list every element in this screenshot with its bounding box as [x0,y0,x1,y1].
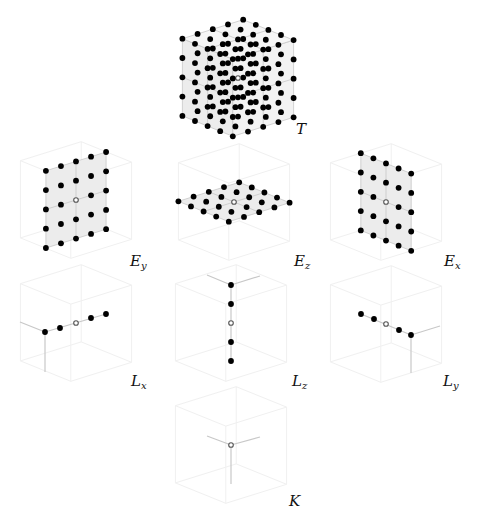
lattice-point [238,104,244,110]
lattice-point [371,316,377,322]
label-T: T [296,122,306,139]
lattice-point [73,178,79,184]
lattice-point [223,51,229,57]
lattice-point [201,209,207,215]
lattice-point [291,95,297,101]
lattice-point [210,104,216,110]
panel-Lz [175,265,286,382]
lattice-point [276,61,282,67]
lattice-point [383,238,389,244]
lattice-point [220,61,226,67]
lattice-point [195,31,201,37]
lattice-point [43,168,49,174]
lattice-point [408,332,414,338]
lattice-point [73,159,79,165]
hollow-center-point [229,321,234,326]
lattice-point [226,219,232,225]
lattice-diagram [0,0,479,518]
lattice-point [228,282,234,288]
lattice-point [278,71,284,77]
lattice-point [180,36,186,42]
lattice-point [272,205,278,211]
lattice-point [235,37,241,43]
lattice-point [210,46,216,52]
lattice-point [396,166,402,172]
panel-Lx [20,265,132,382]
lattice-point [248,119,254,125]
lattice-point [245,109,251,115]
lattice-point [180,55,186,61]
panel-T [180,17,297,139]
lattice-point [396,243,402,249]
hollow-center-point [74,198,79,203]
lattice-point [223,109,229,115]
lattice-point [250,32,256,38]
panel-Ez [176,144,293,261]
lattice-point [230,95,236,101]
lattice-point [358,208,364,214]
lattice-point [235,56,241,62]
lattice-point [383,161,389,167]
lattice-point [225,41,231,47]
lattice-point [274,195,280,201]
lattice-point [225,79,231,85]
lattice-point [263,95,269,101]
lattice-point [408,190,414,196]
lattice-point [43,207,49,213]
lattice-point [220,118,226,124]
lattice-point [88,231,94,237]
lattice-point [240,36,246,42]
lattice-point [210,65,216,71]
lattice-point [266,85,272,91]
lattice-point [220,41,226,47]
lattice-point [278,109,284,115]
lattice-point [210,84,216,90]
lattice-point [192,41,198,47]
panel-K [175,387,286,504]
lattice-point [217,128,223,134]
lattice-point [358,228,364,234]
lattice-point [278,90,284,96]
lattice-point [207,36,213,42]
hollow-center-point [74,321,79,326]
lattice-point [207,55,213,61]
lattice-point [180,113,186,119]
lattice-point [371,155,377,161]
lattice-point [250,109,256,115]
lattice-point [250,70,256,76]
label-Ez: Ez [294,254,310,271]
lattice-point [233,46,239,52]
lattice-point [207,94,213,100]
lattice-point [58,163,64,169]
lattice-point [221,184,227,190]
lattice-point [238,27,244,33]
lattice-point [245,90,251,96]
lattice-point [228,339,234,345]
lattice-point [244,204,250,210]
lattice-point [103,226,109,232]
lattice-point [217,51,223,57]
lattice-point [43,226,49,232]
lattice-point [253,61,259,67]
lattice-point [205,65,211,71]
label-Lx: Lx [131,374,147,391]
lattice-point [103,149,109,155]
lattice-point [210,26,216,32]
lattice-point [240,55,246,61]
lattice-point [43,187,49,193]
lattice-point [291,37,297,43]
lattice-point [88,173,94,179]
lattice-point [234,189,240,195]
lattice-point [205,46,211,52]
lattice-point [260,66,266,72]
lattice-point [358,170,364,176]
lattice-point [233,124,239,130]
lattice-point [228,301,234,307]
lattice-point [223,89,229,95]
label-Ey: Ey [130,254,147,271]
lattice-point [230,133,236,139]
lattice-point [248,42,254,48]
lattice-point [180,94,186,100]
lattice-point [240,94,246,100]
lattice-point [276,42,282,48]
